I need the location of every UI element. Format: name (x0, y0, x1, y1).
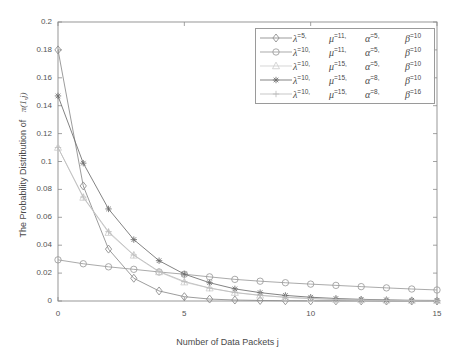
legend-label-0: λ=5,μ=11,α=5,β=10 (293, 32, 441, 44)
legend-label-3: λ=10,μ=15,α=8,β=10 (293, 74, 441, 86)
legend-marker-diamond-icon (259, 32, 293, 44)
legend-row-3: λ=10,μ=15,α=8,β=10 (256, 73, 434, 87)
legend-marker-circle-icon (259, 46, 293, 58)
chart-legend: λ=5,μ=11,α=5,β=10λ=10,μ=11,α=5,β=10λ=10,… (255, 28, 435, 104)
legend-param-0: λ=5, (293, 32, 329, 44)
legend-param-3: β=10 (405, 74, 441, 86)
legend-param-3: β=10 (405, 32, 441, 44)
series-2 (54, 144, 440, 304)
legend-param-2: α=8, (365, 88, 405, 100)
legend-row-4: λ=10,μ=15,α=8,β=16 (256, 87, 434, 101)
x-tick-label: 0 (38, 309, 78, 318)
y-tick-label: 0.04 (8, 240, 52, 249)
y-axis-label-text: The Probability Distribution of (18, 120, 28, 238)
legend-param-0: λ=10, (293, 46, 329, 58)
x-tick-label: 5 (164, 309, 204, 318)
legend-param-0: λ=10, (293, 88, 329, 100)
legend-param-1: μ=11, (329, 46, 365, 58)
legend-param-2: α=8, (365, 74, 405, 86)
legend-marker-asterisk-icon (259, 74, 293, 86)
legend-param-0: λ=10, (293, 74, 329, 86)
legend-param-2: α=5, (365, 60, 405, 72)
series-1 (55, 257, 440, 294)
x-tick-label: 10 (291, 309, 331, 318)
y-axis-label-symbol: π(1,j) (18, 93, 28, 113)
legend-label-1: λ=10,μ=11,α=5,β=10 (293, 46, 441, 58)
y-tick-label: 0.02 (8, 268, 52, 277)
legend-row-0: λ=5,μ=11,α=5,β=10 (256, 31, 434, 45)
legend-param-3: β=10 (405, 46, 441, 58)
legend-param-1: μ=15, (329, 60, 365, 72)
legend-label-2: λ=10,μ=15,α=5,β=10 (293, 60, 441, 72)
y-tick-label: 0.08 (8, 184, 52, 193)
legend-row-2: λ=10,μ=15,α=5,β=10 (256, 59, 434, 73)
y-tick-label: 0.1 (8, 157, 52, 166)
legend-param-1: μ=15, (329, 88, 365, 100)
legend-param-0: λ=10, (293, 60, 329, 72)
x-tick-label: 15 (417, 309, 455, 318)
legend-param-1: μ=15, (329, 74, 365, 86)
y-axis-label: The Probability Distribution of π(1,j) (18, 70, 28, 260)
legend-label-4: λ=10,μ=15,α=8,β=16 (293, 88, 441, 100)
chart-figure: 00.020.040.060.080.10.120.140.160.180.2 … (0, 0, 455, 364)
y-tick-label: 0.14 (8, 101, 52, 110)
x-axis-label: Number of Data Packets j (0, 337, 455, 347)
legend-param-3: β=16 (405, 88, 441, 100)
legend-param-2: α=5, (365, 32, 405, 44)
legend-marker-plus-icon (259, 88, 293, 100)
y-tick-label: 0 (8, 296, 52, 305)
y-tick-label: 0.12 (8, 129, 52, 138)
y-tick-label: 0.2 (8, 17, 52, 26)
series-3 (55, 93, 440, 304)
y-tick-label: 0.18 (8, 45, 52, 54)
legend-param-3: β=10 (405, 60, 441, 72)
y-tick-label: 0.06 (8, 212, 52, 221)
legend-row-1: λ=10,μ=11,α=5,β=10 (256, 45, 434, 59)
legend-marker-triangle-icon (259, 60, 293, 72)
y-tick-label: 0.16 (8, 73, 52, 82)
legend-param-2: α=5, (365, 46, 405, 58)
legend-param-1: μ=11, (329, 32, 365, 44)
